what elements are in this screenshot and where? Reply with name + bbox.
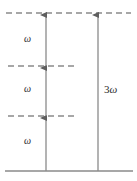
omega-label-top: ω — [24, 34, 31, 44]
omega-label-middle: ω — [24, 84, 31, 94]
omega-label-bottom: ω — [24, 136, 31, 146]
harmonic-label: 3ω — [104, 84, 117, 95]
energy-level-diagram: ω ω ω 3ω — [0, 0, 137, 181]
harmonic-label-symbol: ω — [110, 83, 118, 95]
